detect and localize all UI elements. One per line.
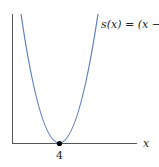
function-label: s(x) = (x −	[101, 18, 159, 31]
x-tick-label: 4	[56, 149, 63, 162]
parabola-curve	[21, 14, 98, 143]
vertex-point	[57, 141, 62, 146]
x-axis-label: x	[143, 137, 150, 150]
parabola-chart: 4 x s(x) = (x −	[0, 0, 159, 167]
